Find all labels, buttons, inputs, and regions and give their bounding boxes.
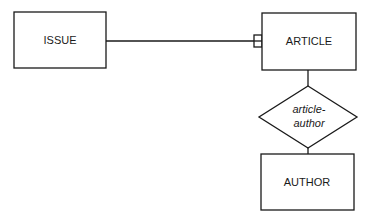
relationship-label-line1: article- (292, 103, 325, 115)
er-diagram: ISSUE ARTICLE article- author AUTHOR (0, 0, 368, 224)
edge-issue-article (106, 35, 262, 47)
relationship-label-line2: author (293, 117, 326, 129)
relationship-article-author[interactable]: article- author (259, 86, 357, 148)
entity-author[interactable]: AUTHOR (261, 154, 354, 210)
entity-label-author: AUTHOR (284, 176, 331, 188)
entity-label-issue: ISSUE (43, 34, 76, 46)
entity-article[interactable]: ARTICLE (262, 13, 356, 70)
entity-label-article: ARTICLE (286, 35, 332, 47)
many-connector-icon (254, 35, 262, 47)
entity-issue[interactable]: ISSUE (14, 12, 106, 68)
